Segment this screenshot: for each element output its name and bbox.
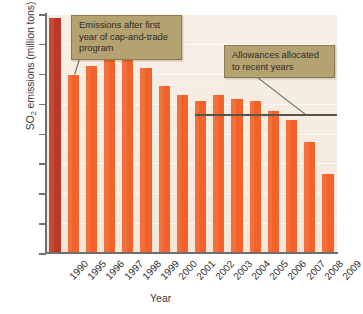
bar-highlight	[250, 101, 255, 253]
x-axis-title: Year	[150, 292, 171, 304]
bar-highlight	[86, 66, 91, 253]
bar-2009	[322, 174, 333, 253]
x-tick-label-1990: 1990	[67, 258, 90, 282]
y-tick-mark	[39, 193, 46, 195]
bar-1996	[86, 66, 97, 253]
bar-2002	[195, 101, 206, 253]
allowance-reference-line	[195, 114, 337, 116]
y-axis-title-prefix: SO	[24, 115, 36, 130]
x-tick-label-2000: 2000	[176, 258, 199, 282]
x-tick-label-2007: 2007	[304, 258, 327, 282]
bar-1990	[49, 18, 60, 253]
bar-1995	[68, 75, 79, 253]
x-tick-label-2003: 2003	[231, 258, 254, 282]
x-tick-label-2001: 2001	[194, 258, 217, 282]
bar-2001	[177, 95, 188, 253]
x-tick-label-1996: 1996	[104, 258, 127, 282]
bar-highlight	[122, 59, 127, 253]
y-tick-mark	[39, 163, 46, 165]
annotation-allowances: Allowances allocated to recent years	[224, 45, 335, 78]
x-tick-label-1995: 1995	[85, 258, 108, 282]
bar-highlight	[104, 60, 109, 253]
bar-1997	[104, 60, 115, 253]
bar-highlight	[286, 120, 291, 253]
bar-2000	[159, 86, 170, 253]
annotation-emissions: Emissions after first year of cap-and-tr…	[71, 15, 182, 60]
y-tick-mark	[39, 14, 46, 16]
bar-highlight	[268, 111, 273, 253]
bar-2006	[268, 111, 279, 253]
bar-2003	[213, 95, 224, 253]
x-tick-label-2009: 2009	[340, 258, 363, 282]
y-tick-mark	[39, 223, 46, 225]
x-tick-label-1997: 1997	[122, 258, 145, 282]
y-tick-mark	[39, 74, 46, 76]
y-tick-mark	[39, 134, 46, 136]
x-tick-label-1999: 1999	[158, 258, 181, 282]
bar-highlight	[231, 99, 236, 253]
x-tick-label-2006: 2006	[285, 258, 308, 282]
bar-highlight	[304, 142, 309, 253]
bar-highlight	[68, 75, 73, 253]
x-tick-label-2008: 2008	[322, 258, 345, 282]
x-tick-label-2005: 2005	[267, 258, 290, 282]
y-axis-title: SO2 emissions (million tons)	[24, 0, 36, 156]
bar-2004	[231, 99, 242, 253]
y-tick-mark	[39, 104, 46, 106]
bar-2008	[304, 142, 315, 253]
bar-highlight	[177, 95, 182, 253]
y-tick-mark	[39, 253, 46, 255]
bar-highlight	[322, 174, 327, 253]
y-axis-title-suffix: emissions (million tons)	[24, 2, 36, 112]
y-axis-title-subscript: 2	[29, 111, 38, 115]
bar-1999	[140, 68, 151, 253]
bar-highlight	[195, 101, 200, 253]
bar-highlight	[49, 18, 54, 253]
bar-1998	[122, 59, 133, 253]
x-tick-label-1998: 1998	[140, 258, 163, 282]
x-tick-label-2002: 2002	[213, 258, 236, 282]
x-axis-line	[45, 252, 338, 254]
x-tick-label-2004: 2004	[249, 258, 272, 282]
bar-highlight	[140, 68, 145, 253]
y-tick-mark	[39, 44, 46, 46]
bar-2005	[250, 101, 261, 253]
bar-highlight	[159, 86, 164, 253]
bar-highlight	[213, 95, 218, 253]
bar-2007	[286, 120, 297, 253]
